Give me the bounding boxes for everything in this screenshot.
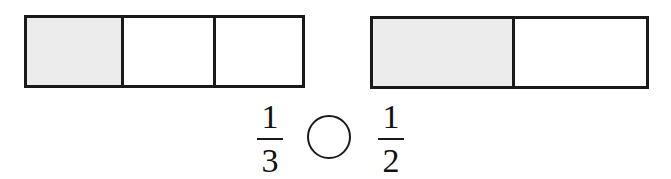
left-fraction: 1 3 xyxy=(255,100,285,179)
comparison-blank-circle[interactable] xyxy=(307,115,351,159)
left-fraction-numerator: 1 xyxy=(255,100,285,136)
left-fraction-denominator: 3 xyxy=(255,144,285,179)
left-bar-cell-empty xyxy=(213,18,302,85)
left-bar-cell-shaded xyxy=(27,18,121,85)
right-fraction-denominator: 2 xyxy=(376,144,406,179)
right-fraction-numerator: 1 xyxy=(376,100,406,136)
right-bar-cell-empty xyxy=(512,19,646,86)
right-bar-cell-shaded xyxy=(373,19,512,86)
right-fraction: 1 2 xyxy=(376,100,406,179)
left-fraction-bar xyxy=(24,15,305,88)
right-fraction-bar xyxy=(370,16,649,89)
left-bar-cell-empty xyxy=(121,18,213,85)
left-fraction-bar-line xyxy=(257,138,283,140)
right-fraction-bar-line xyxy=(378,138,404,140)
